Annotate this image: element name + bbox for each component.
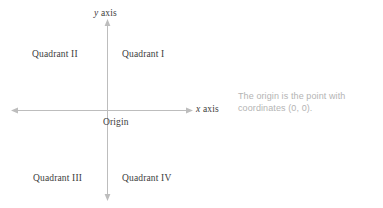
x-axis-variable: x (196, 104, 200, 114)
y-axis-variable: y (94, 8, 98, 18)
origin-note-line-2: coordinates (0, 0). (238, 103, 376, 115)
x-axis-word: axis (203, 104, 219, 114)
quadrant-4-label: Quadrant IV (122, 173, 171, 184)
y-axis-label: y axis (94, 8, 117, 19)
origin-label: Origin (103, 117, 129, 128)
y-axis-up-arrowhead (105, 19, 111, 26)
y-axis-down-arrowhead (105, 194, 111, 201)
origin-note: The origin is the point with coordinates… (238, 91, 376, 114)
y-axis-word: axis (101, 8, 117, 18)
x-axis-left-arrowhead (11, 108, 18, 114)
x-axis-label: x axis (196, 104, 219, 115)
x-axis-right-arrowhead (186, 108, 193, 114)
quadrant-3-label: Quadrant III (33, 173, 82, 184)
quadrant-2-label: Quadrant II (32, 49, 78, 60)
origin-note-line-1: The origin is the point with (238, 91, 376, 103)
coordinate-plane-diagram: y axis x axis Origin Quadrant I Quadrant… (0, 0, 383, 208)
quadrant-1-label: Quadrant I (122, 49, 164, 60)
